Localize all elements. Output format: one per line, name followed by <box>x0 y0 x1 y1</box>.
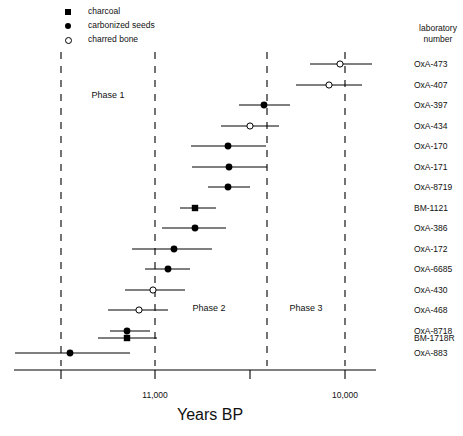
chart-svg <box>0 0 463 436</box>
phase-label-2: Phase 2 <box>192 303 225 313</box>
data-row-BM-1718R <box>98 335 157 341</box>
row-label-BM-1718R: BM-1718R <box>414 333 455 343</box>
data-row-OxA-397 <box>239 102 290 109</box>
marker-filled-circle-OxA-6685 <box>165 266 172 273</box>
marker-open-circle-OxA-407 <box>326 82 332 88</box>
marker-open-circle-OxA-468 <box>136 307 142 313</box>
data-row-OxA-473 <box>310 61 372 67</box>
legend-label-charred-bone: charred bone <box>88 34 138 44</box>
row-label-OxA-407: OxA-407 <box>414 80 448 90</box>
marker-open-circle-OxA-434 <box>247 123 253 129</box>
row-label-OxA-468: OxA-468 <box>414 305 448 315</box>
phase-label-3: Phase 3 <box>289 303 322 313</box>
x-tick-label-10000: 10,000 <box>332 390 358 400</box>
right-axis-header-line2: number <box>414 34 462 45</box>
marker-filled-circle-OxA-170 <box>225 143 232 150</box>
marker-filled-circle-OxA-397 <box>261 102 268 109</box>
row-label-OxA-397: OxA-397 <box>414 100 448 110</box>
right-axis-header-line1: laboratory <box>414 23 462 34</box>
row-label-OxA-473: OxA-473 <box>414 59 448 69</box>
row-label-OxA-430: OxA-430 <box>414 285 448 295</box>
row-label-OxA-170: OxA-170 <box>414 141 448 151</box>
data-row-OxA-8718 <box>110 328 150 335</box>
data-row-OxA-434 <box>221 123 279 129</box>
row-label-OxA-8719: OxA-8719 <box>414 182 452 192</box>
marker-square-BM-1121 <box>192 205 198 211</box>
row-label-OxA-172: OxA-172 <box>414 244 448 254</box>
data-row-OxA-407 <box>296 82 362 88</box>
marker-filled-circle-OxA-8718 <box>124 328 131 335</box>
legend-marker-carbonized-seeds-icon <box>65 23 71 29</box>
marker-filled-circle-OxA-172 <box>171 246 178 253</box>
marker-filled-circle-OxA-883 <box>67 350 74 357</box>
marker-filled-circle-OxA-8719 <box>225 184 232 191</box>
chart-canvas: charcoal carbonized seeds charred bone l… <box>0 0 463 436</box>
marker-filled-circle-OxA-386 <box>192 225 199 232</box>
row-label-OxA-6685: OxA-6685 <box>414 264 452 274</box>
phase-label-1: Phase 1 <box>91 90 124 100</box>
legend-label-carbonized-seeds: carbonized seeds <box>88 20 155 30</box>
data-row-OxA-172 <box>132 246 212 253</box>
data-row-OxA-386 <box>162 225 226 232</box>
data-row-OxA-6685 <box>145 266 190 273</box>
data-row-OxA-430 <box>125 287 185 293</box>
data-row-OxA-468 <box>108 307 168 313</box>
row-label-OxA-883: OxA-883 <box>414 348 448 358</box>
row-label-OxA-434: OxA-434 <box>414 121 448 131</box>
row-label-BM-1121: BM-1121 <box>414 203 448 213</box>
data-row-OxA-171 <box>192 164 267 171</box>
data-row-OxA-170 <box>191 143 266 150</box>
x-tick-label-11000: 11,000 <box>142 390 167 400</box>
legend-label-charcoal: charcoal <box>88 6 120 16</box>
x-axis-title: Years BP <box>177 406 243 424</box>
row-label-OxA-171: OxA-171 <box>414 162 448 172</box>
marker-filled-circle-OxA-171 <box>226 164 233 171</box>
marker-square-BM-1718R <box>124 335 130 341</box>
data-row-BM-1121 <box>180 205 216 211</box>
data-row-OxA-8719 <box>208 184 250 191</box>
data-row-OxA-883 <box>15 350 130 357</box>
row-label-OxA-386: OxA-386 <box>414 223 448 233</box>
legend-marker-charcoal-icon <box>65 9 71 15</box>
right-axis-header: laboratory number <box>414 23 462 44</box>
marker-open-circle-OxA-473 <box>337 61 343 67</box>
legend-marker-charred-bone-icon <box>65 37 72 44</box>
marker-open-circle-OxA-430 <box>150 287 156 293</box>
